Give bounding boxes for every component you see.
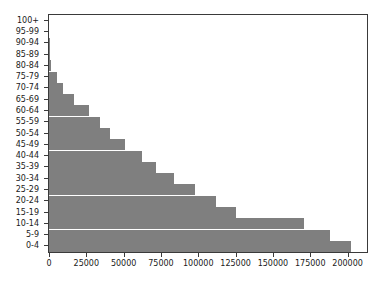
y-tick-mark: [44, 110, 48, 111]
bar-row: [49, 15, 367, 26]
bar-row: [49, 196, 367, 207]
y-tick-mark: [44, 212, 48, 213]
bar: [49, 241, 351, 252]
y-tick-mark: [44, 189, 48, 190]
x-tick-mark: [86, 253, 87, 257]
y-tick-label: 100+: [17, 15, 39, 24]
y-tick-label: 75-79: [16, 72, 39, 81]
x-tick-label: 0: [46, 259, 51, 268]
x-tick-mark: [310, 253, 311, 257]
bar: [49, 49, 50, 60]
x-tick-label: 150000: [258, 259, 289, 268]
y-tick-mark: [44, 234, 48, 235]
y-tick-label: 30-34: [16, 173, 39, 182]
bar: [49, 196, 216, 207]
bar: [49, 60, 51, 71]
bar: [49, 94, 74, 105]
bar-chart-figure: 100+95-9990-9485-8980-8475-7970-7465-696…: [0, 0, 381, 282]
bar-row: [49, 38, 367, 49]
y-tick-mark: [44, 54, 48, 55]
y-tick-label: 0-4: [26, 241, 39, 250]
bar: [49, 117, 100, 128]
bar: [49, 128, 110, 139]
bar-row: [49, 218, 367, 229]
y-tick-mark: [44, 87, 48, 88]
y-tick-label: 90-94: [16, 38, 39, 47]
bar-row: [49, 72, 367, 83]
x-tick-mark: [236, 253, 237, 257]
y-tick-mark: [44, 99, 48, 100]
bar: [49, 207, 236, 218]
bar-row: [49, 60, 367, 71]
y-tick-label: 60-64: [16, 105, 39, 114]
x-tick-label: 50000: [111, 259, 136, 268]
y-tick-label: 95-99: [16, 26, 39, 35]
bar-row: [49, 207, 367, 218]
bar-row: [49, 105, 367, 116]
y-tick-label: 15-19: [16, 207, 39, 216]
y-tick-label: 50-54: [16, 128, 39, 137]
y-tick-mark: [44, 200, 48, 201]
x-tick-label: 25000: [74, 259, 99, 268]
y-tick-mark: [44, 76, 48, 77]
y-tick-mark: [44, 166, 48, 167]
y-tick-label: 20-24: [16, 196, 39, 205]
y-tick-label: 35-39: [16, 162, 39, 171]
bar-row: [49, 128, 367, 139]
bar: [49, 162, 156, 173]
x-tick-mark: [198, 253, 199, 257]
x-tick-label: 125000: [220, 259, 251, 268]
x-tick-label: 200000: [332, 259, 363, 268]
bar: [49, 105, 89, 116]
bar-row: [49, 173, 367, 184]
y-tick-label: 65-69: [16, 94, 39, 103]
bar-row: [49, 184, 367, 195]
y-tick-label: 25-29: [16, 184, 39, 193]
bar: [49, 151, 142, 162]
x-tick-mark: [49, 253, 50, 257]
x-axis: 0250005000075000100000125000150000175000…: [0, 253, 381, 273]
y-tick-mark: [44, 223, 48, 224]
y-tick-label: 5-9: [26, 230, 39, 239]
y-tick-mark: [44, 31, 48, 32]
bar-row: [49, 117, 367, 128]
bars-container: [49, 15, 367, 252]
bar-row: [49, 151, 367, 162]
y-axis: 100+95-9990-9485-8980-8475-7970-7465-696…: [0, 14, 44, 253]
bar-row: [49, 241, 367, 252]
x-tick-mark: [273, 253, 274, 257]
bar: [49, 83, 63, 94]
x-tick-mark: [348, 253, 349, 257]
y-tick-mark: [44, 121, 48, 122]
y-tick-mark: [44, 20, 48, 21]
bar-row: [49, 230, 367, 241]
y-tick-mark: [44, 144, 48, 145]
x-tick-label: 100000: [183, 259, 214, 268]
y-tick-label: 45-49: [16, 139, 39, 148]
bar: [49, 38, 50, 49]
bar-row: [49, 139, 367, 150]
x-tick-label: 75000: [148, 259, 173, 268]
y-tick-mark: [44, 245, 48, 246]
y-tick-mark: [44, 155, 48, 156]
x-tick-label: 175000: [295, 259, 326, 268]
y-tick-label: 70-74: [16, 83, 39, 92]
bar: [49, 139, 125, 150]
x-tick-mark: [124, 253, 125, 257]
bar: [49, 218, 304, 229]
bar: [49, 184, 195, 195]
bar: [49, 230, 330, 241]
y-tick-mark: [44, 178, 48, 179]
y-tick-label: 10-14: [16, 218, 39, 227]
bar-row: [49, 94, 367, 105]
bar: [49, 72, 57, 83]
y-tick-label: 40-44: [16, 151, 39, 160]
bar: [49, 173, 174, 184]
y-tick-mark: [44, 42, 48, 43]
y-tick-mark: [44, 65, 48, 66]
x-tick-mark: [161, 253, 162, 257]
bar-row: [49, 26, 367, 37]
y-tick-label: 85-89: [16, 49, 39, 58]
bar-row: [49, 49, 367, 60]
y-tick-mark: [44, 133, 48, 134]
